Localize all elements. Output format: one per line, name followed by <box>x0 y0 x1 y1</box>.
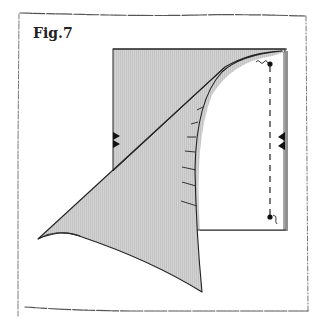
folding-diagram <box>0 0 325 329</box>
figure-label: Fig.7 <box>33 25 73 41</box>
